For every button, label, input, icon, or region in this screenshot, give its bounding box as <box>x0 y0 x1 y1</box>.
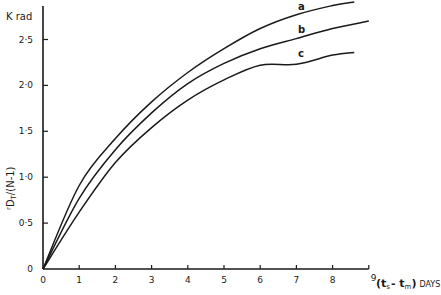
y-axis-label: rDT/(N-1) <box>5 166 18 210</box>
axes <box>43 6 369 269</box>
x-label-mid: - t <box>391 277 405 290</box>
y-tick-label: 2·0 <box>19 80 34 90</box>
x-label-sub1: s <box>386 283 390 291</box>
x-label-unit: DAYS <box>419 280 440 289</box>
curve-label-c: c <box>298 48 304 59</box>
y-unit-label: K rad <box>6 11 32 22</box>
svg-text:rDT/(N-1): rDT/(N-1) <box>5 166 18 210</box>
curve-label-b: b <box>298 24 305 35</box>
x-tick-label: 8 <box>330 275 336 285</box>
y-tick-label: 1·0 <box>19 172 34 182</box>
x-tick-label: 5 <box>221 275 227 285</box>
x-tick-label: 3 <box>149 275 155 285</box>
curve-label-a: a <box>298 1 305 12</box>
x-label-open: (t <box>376 277 386 290</box>
x-axis-label: (ts- tm)DAYS <box>376 277 440 291</box>
y-tick-label: 0·5 <box>19 218 33 228</box>
x-tick-label: 0 <box>40 275 46 285</box>
curve-c <box>43 52 354 269</box>
y-tick-label: 0 <box>27 264 33 274</box>
y-tick-label: 2·5 <box>19 35 33 45</box>
ticks: 012345678900·51·01·52·02·5 <box>19 35 377 286</box>
curves: abc <box>43 1 369 269</box>
x-tick-label: 4 <box>185 275 191 285</box>
labels: K rad rDT/(N-1) (ts- tm)DAYS <box>5 11 440 291</box>
chart: 012345678900·51·01·52·02·5 abc K rad rDT… <box>0 0 441 295</box>
x-tick-label: 6 <box>257 275 263 285</box>
y-tick-label: 1·5 <box>19 126 33 136</box>
x-tick-label: 1 <box>76 275 82 285</box>
curve-a <box>43 2 354 269</box>
x-tick-label: 2 <box>113 275 119 285</box>
x-tick-label: 7 <box>294 275 300 285</box>
x-label-close: ) <box>411 277 416 290</box>
y-label-post: /(N-1) <box>5 166 16 195</box>
